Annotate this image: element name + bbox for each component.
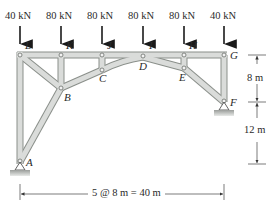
joint-label-D: D: [139, 61, 147, 72]
joint-label-J: J: [107, 40, 112, 51]
load-label-J: 80 kN: [87, 11, 113, 22]
joint-label-A: A: [26, 157, 33, 168]
load-label-K: 80 kN: [46, 11, 72, 22]
joint-label-C: C: [99, 73, 106, 84]
joint-label-I: I: [149, 40, 153, 51]
joint-label-B: B: [64, 92, 71, 103]
joint-label-F: F: [230, 97, 237, 108]
joint-label-K: K: [66, 40, 73, 51]
load-label-L: 40 kN: [5, 11, 31, 22]
dimension-upper-vertical: 8 m: [246, 73, 264, 84]
joint-label-E: E: [179, 72, 186, 83]
joint-label-G: G: [230, 50, 238, 61]
load-label-I: 80 kN: [128, 11, 154, 22]
joint-label-L: L: [25, 40, 31, 51]
dimension-horizontal: 5 @ 8 m = 40 m: [91, 188, 162, 199]
joint-label-H: H: [189, 40, 197, 51]
load-label-G: 40 kN: [210, 11, 236, 22]
load-label-H: 80 kN: [169, 11, 195, 22]
dimension-lower-vertical: 12 m: [243, 125, 266, 136]
truss-members: [17, 52, 227, 164]
